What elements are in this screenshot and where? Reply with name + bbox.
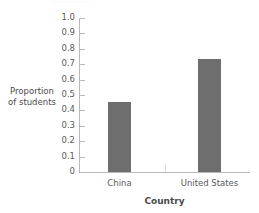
y-axis-tick-label-0.5: 0.5 (61, 89, 75, 100)
cut-off-caption-remnant: ................ (52, 0, 222, 4)
y-axis-tick-0.4: 0.4 (80, 110, 85, 111)
y-axis-tick-label-0.9: 0.9 (61, 27, 75, 38)
bar-chart: ................ Proportion of students … (0, 0, 259, 213)
y-axis-tick-label-0.7: 0.7 (61, 58, 75, 69)
y-axis-tick-0.1: 0.1 (80, 157, 85, 158)
y-axis-tick-label-1.0: 1.0 (61, 12, 75, 23)
y-axis-tick-0.6: 0.6 (80, 80, 85, 81)
y-axis-tick-0: 0 (80, 172, 85, 173)
x-axis-line (79, 172, 250, 173)
y-axis-tick-label-0: 0 (70, 166, 75, 177)
y-axis-tick-label-0.8: 0.8 (61, 43, 75, 54)
y-axis-tick-0.7: 0.7 (80, 64, 85, 65)
y-axis-tick-label-0.2: 0.2 (61, 135, 75, 146)
plot-area: 1.0 0.9 0.8 0.7 0.6 0.5 0.4 0.3 0.2 0.1 (79, 18, 250, 172)
bar-united-states[interactable] (198, 59, 221, 172)
y-axis-tick-label-0.1: 0.1 (61, 151, 75, 162)
y-axis-tick-0.3: 0.3 (80, 126, 85, 127)
y-axis-tick-label-0.6: 0.6 (61, 74, 75, 85)
x-axis-category-label-united-states: United States (181, 178, 239, 189)
y-axis-tick-label-0.4: 0.4 (61, 104, 75, 115)
y-axis-tick-0.2: 0.2 (80, 141, 85, 142)
x-axis-title: Country (79, 196, 250, 207)
y-axis-tick-label-0.3: 0.3 (61, 120, 75, 131)
y-axis-title-line-2: of students (1, 97, 63, 108)
y-axis-title: Proportion of students (1, 86, 63, 107)
y-axis-tick-0.9: 0.9 (80, 33, 85, 34)
y-axis-tick-1.0: 1.0 (80, 18, 85, 19)
bar-china[interactable] (108, 102, 131, 172)
y-axis-title-line-1: Proportion (1, 86, 63, 97)
y-axis-tick-0.5: 0.5 (80, 95, 85, 96)
y-axis-tick-0.8: 0.8 (80, 49, 85, 50)
x-axis-middle-tick (165, 164, 166, 172)
x-axis-category-label-china: China (107, 178, 131, 189)
